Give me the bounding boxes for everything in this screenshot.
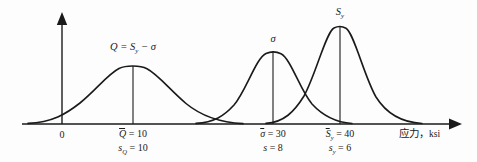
margin-mean-label: Q = 10 [119, 129, 147, 140]
stress-curve-label: σ [270, 33, 275, 44]
margin-curve-label-sy-sub: y [135, 47, 138, 54]
stress-mean-value: = 30 [265, 128, 286, 139]
margin-curve-label: Q = Sy − σ [110, 41, 156, 52]
margin-sd-sub: Q [122, 148, 127, 155]
margin-curve-label-sigma: σ [151, 41, 156, 52]
y-axis-arrowhead [57, 12, 67, 25]
strength-distribution-curve [266, 27, 422, 124]
x-axis-label-text: 应力 [399, 127, 419, 139]
stress-mean-symbol: σ [260, 129, 265, 140]
margin-mean-symbol: Q [119, 129, 126, 140]
stress-sd-label: s = 8 [263, 143, 283, 154]
margin-distribution-curve [28, 66, 243, 124]
x-axis-label: 应力，ksi [399, 128, 440, 140]
margin-curve-label-minus: − [138, 41, 150, 52]
x-axis-label-separator: ， [419, 127, 429, 139]
margin-sd-value: = 10 [127, 142, 148, 153]
margin-curve-label-q: Q [110, 41, 118, 52]
margin-mean-value: = 10 [126, 128, 147, 139]
strength-mean-label: Sy = 40 [326, 129, 355, 140]
margin-sd-label: sQ = 10 [118, 143, 147, 154]
strength-curve-label-sub: y [341, 12, 344, 19]
stress-distribution-curve [196, 52, 352, 124]
strength-mean-sub: y [331, 134, 334, 141]
strength-curve-label: Sy [336, 6, 344, 17]
strength-sd-label: sy = 6 [329, 143, 351, 154]
stress-mean-label: σ = 30 [260, 129, 286, 140]
x-axis-label-unit: ksi [429, 129, 440, 139]
distribution-figure: Q = Sy − σ σ Sy 0 Q = 10 sQ = 10 σ = 30 … [0, 0, 477, 162]
margin-curve-label-eq: = [118, 41, 130, 52]
strength-sd-sub: y [333, 148, 336, 155]
strength-sd-value: = 6 [336, 142, 352, 153]
origin-tick-label: 0 [60, 130, 65, 141]
stress-curve-label-sigma: σ [270, 33, 275, 44]
strength-mean-value: = 40 [334, 128, 355, 139]
x-axis-arrowhead [449, 119, 462, 130]
stress-sd-value: = 8 [267, 142, 283, 153]
